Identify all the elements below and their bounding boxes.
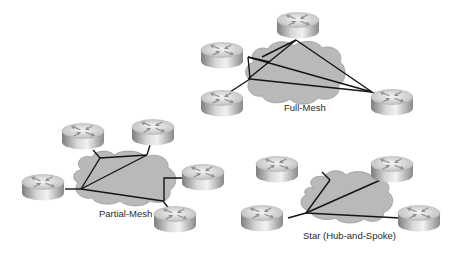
router-icon (371, 157, 413, 183)
partial-mesh-label: Partial-Mesh (99, 208, 152, 219)
router-icon (154, 207, 196, 233)
star-label: Star (Hub-and-Spoke) (303, 230, 396, 241)
router-icon (201, 91, 243, 117)
partial-mesh-topology: Partial-Mesh (22, 120, 224, 233)
router-icon (277, 13, 319, 39)
router-icon (132, 120, 174, 146)
star-topology: Star (Hub-and-Spoke) (241, 157, 440, 242)
partial-mesh-cloud (74, 151, 176, 206)
router-icon (22, 175, 64, 201)
router-icon (201, 43, 243, 69)
full-mesh-cloud (246, 41, 345, 104)
router-icon (398, 206, 440, 232)
wan-topology-diagram: Full-Mesh Partial-Mesh (0, 0, 449, 253)
hub-router-icon (241, 206, 283, 232)
router-icon (256, 157, 298, 183)
full-mesh-topology: Full-Mesh (201, 13, 413, 117)
router-icon (182, 165, 224, 191)
full-mesh-label: Full-Mesh (284, 102, 326, 113)
router-icon (371, 90, 413, 116)
router-icon (62, 124, 104, 150)
